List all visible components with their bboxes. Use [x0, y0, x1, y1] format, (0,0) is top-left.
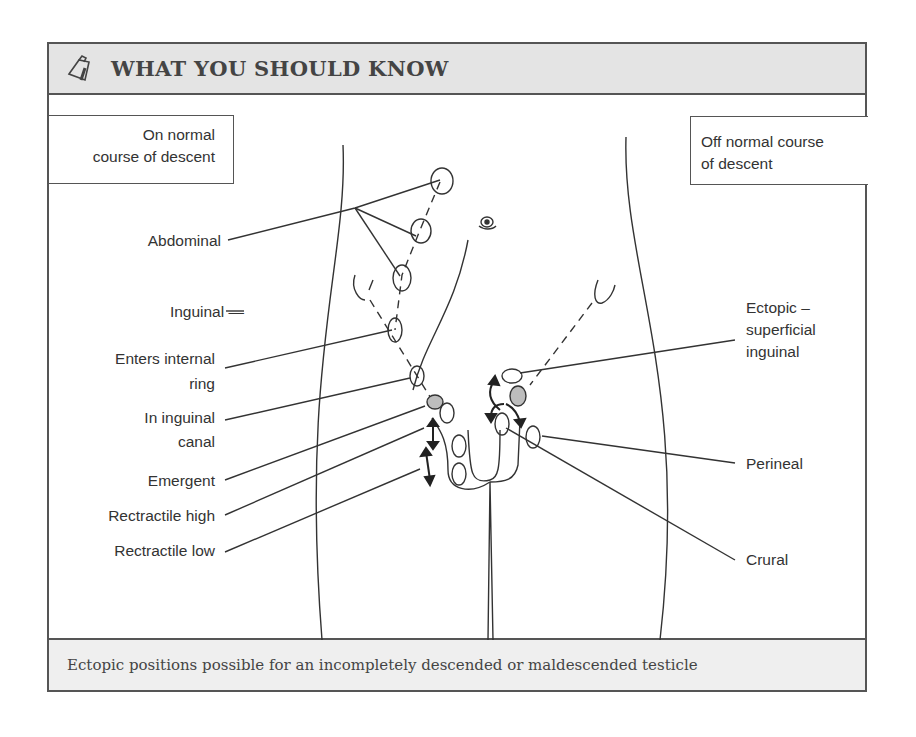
label-inguinal: Inguinal —: [170, 302, 244, 321]
label-emergent: Emergent: [148, 471, 215, 490]
legend-box-off-course: Off normal course of descent: [690, 116, 868, 185]
label-perineal: Perineal: [746, 454, 803, 473]
label-enters-internal-ring-1: Enters internal: [115, 349, 215, 368]
legend-off-line1: Off normal course: [701, 132, 824, 151]
left-body-outline: [316, 145, 343, 640]
legend-box-normal-course: On normal course of descent: [48, 115, 234, 184]
label-ectopic-3: inguinal: [746, 342, 799, 361]
anatomy-diagram: [0, 0, 916, 737]
label-ectopic-1: Ectopic –: [746, 298, 810, 317]
label-in-inguinal-canal-2: canal: [178, 432, 215, 451]
label-retractile-high: Rectractile high: [108, 506, 215, 525]
legend-off-line2: of descent: [701, 154, 773, 173]
label-enters-internal-ring-2: ring: [189, 374, 215, 393]
leg-separation-line: [488, 482, 493, 640]
label-crural: Crural: [746, 550, 788, 569]
legend-normal-line1: On normal: [143, 125, 215, 144]
label-in-inguinal-canal-1: In inguinal: [144, 408, 215, 427]
label-abdominal: Abdominal: [148, 231, 221, 250]
legend-normal-line2: course of descent: [93, 147, 215, 166]
label-retractile-low: Rectractile low: [114, 541, 215, 560]
right-body-outline: [626, 137, 668, 640]
label-ectopic-2: superficial: [746, 320, 816, 339]
